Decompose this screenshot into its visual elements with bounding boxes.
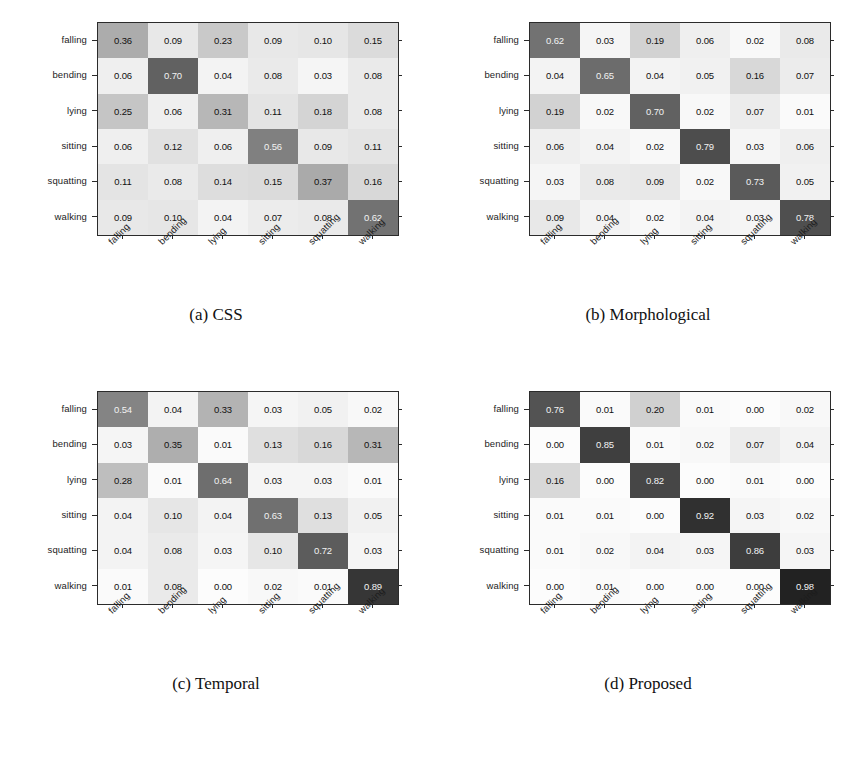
matrix-cell: 0.01 [530,498,580,533]
matrix-cell: 0.85 [580,427,630,462]
matrix-cell: 0.02 [780,498,830,533]
matrix-cell: 0.09 [630,164,680,199]
matrix-cell: 0.06 [530,129,580,164]
matrix-cell: 0.06 [198,129,248,164]
matrix-cell: 0.54 [98,392,148,427]
matrix-cell: 0.13 [248,427,298,462]
matrix-cell: 0.05 [680,58,730,93]
matrix-cell: 0.07 [730,94,780,129]
matrix-cell: 0.02 [680,164,730,199]
matrix-cell-grid: 0.760.010.200.010.000.020.000.850.010.02… [529,391,831,605]
matrix-cell: 0.25 [98,94,148,129]
confusion-matrix-temporal: fallingbendinglyingsittingsquattingwalki… [30,391,402,653]
panel-caption-temporal: (c) Temporal [0,674,432,694]
matrix-cell: 0.01 [680,392,730,427]
matrix-cell: 0.08 [248,58,298,93]
matrix-cell: 0.18 [298,94,348,129]
matrix-cell: 0.70 [630,94,680,129]
matrix-cell: 0.05 [348,498,398,533]
matrix-cell: 0.06 [680,23,730,58]
matrix-cell: 0.03 [298,463,348,498]
matrix-cell: 0.20 [630,392,680,427]
matrix-cell: 0.09 [248,23,298,58]
matrix-cell: 0.03 [248,463,298,498]
y-tick-label-falling: falling [30,22,92,57]
matrix-cell-grid: 0.540.040.330.030.050.020.030.350.010.13… [97,391,399,605]
matrix-cell: 0.79 [680,129,730,164]
confusion-matrix-figure: fallingbendinglyingsittingsquattingwalki… [0,0,864,778]
matrix-cell: 0.00 [780,463,830,498]
matrix-cell-grid: 0.620.030.190.060.020.080.040.650.040.05… [529,22,831,236]
matrix-cell: 0.03 [530,164,580,199]
panel-caption-proposed: (d) Proposed [432,674,864,694]
matrix-cell: 0.01 [630,427,680,462]
matrix-cell: 0.01 [780,94,830,129]
matrix-cell: 0.76 [530,392,580,427]
x-axis-labels: fallingbendinglyingsittingsquattingwalki… [529,604,829,652]
matrix-cell: 0.04 [630,58,680,93]
matrix-cell: 0.04 [630,533,680,568]
matrix-cell: 0.31 [198,94,248,129]
matrix-cell: 0.37 [298,164,348,199]
matrix-cell: 0.08 [148,533,198,568]
matrix-cell: 0.04 [198,498,248,533]
matrix-cell: 0.04 [530,58,580,93]
matrix-cell: 0.10 [248,533,298,568]
matrix-cell: 0.03 [348,533,398,568]
x-axis-labels: fallingbendinglyingsittingsquattingwalki… [529,235,829,283]
y-tick-label-lying: lying [462,462,524,497]
y-tick-label-sitting: sitting [30,128,92,163]
matrix-cell: 0.02 [680,427,730,462]
matrix-cell: 0.19 [530,94,580,129]
matrix-cell: 0.06 [98,58,148,93]
matrix-cell: 0.05 [298,392,348,427]
matrix-cell: 0.01 [198,427,248,462]
y-tick-label-squatting: squatting [30,163,92,198]
panel-temporal: fallingbendinglyingsittingsquattingwalki… [0,369,432,738]
matrix-cell: 0.10 [298,23,348,58]
matrix-cell: 0.00 [680,463,730,498]
matrix-cell: 0.72 [298,533,348,568]
matrix-cell: 0.00 [630,498,680,533]
matrix-cell: 0.70 [148,58,198,93]
y-axis-labels: fallingbendinglyingsittingsquattingwalki… [462,391,524,603]
y-axis-labels: fallingbendinglyingsittingsquattingwalki… [30,22,92,234]
matrix-cell: 0.04 [580,129,630,164]
matrix-cell: 0.28 [98,463,148,498]
y-tick-label-bending: bending [30,426,92,461]
matrix-cell: 0.14 [198,164,248,199]
matrix-cell: 0.15 [248,164,298,199]
matrix-cell: 0.11 [348,129,398,164]
y-axis-labels: fallingbendinglyingsittingsquattingwalki… [462,22,524,234]
matrix-cell: 0.03 [780,533,830,568]
y-tick-label-sitting: sitting [462,128,524,163]
matrix-cell: 0.08 [348,94,398,129]
matrix-cell: 0.00 [580,463,630,498]
matrix-cell: 0.16 [530,463,580,498]
confusion-matrix-css: fallingbendinglyingsittingsquattingwalki… [30,22,402,284]
matrix-cell: 0.08 [780,23,830,58]
y-tick-label-lying: lying [462,93,524,128]
y-tick-label-squatting: squatting [462,163,524,198]
matrix-cell: 0.08 [580,164,630,199]
matrix-cell: 0.03 [730,129,780,164]
matrix-cell: 0.10 [148,498,198,533]
matrix-cell: 0.04 [780,427,830,462]
matrix-cell: 0.13 [298,498,348,533]
x-axis-labels: fallingbendinglyingsittingsquattingwalki… [97,604,397,652]
y-axis-labels: fallingbendinglyingsittingsquattingwalki… [30,391,92,603]
matrix-cell: 0.36 [98,23,148,58]
matrix-cell: 0.03 [730,498,780,533]
y-tick-label-falling: falling [462,22,524,57]
matrix-cell: 0.04 [98,498,148,533]
y-tick-label-falling: falling [462,391,524,426]
matrix-cell: 0.08 [148,164,198,199]
matrix-cell: 0.02 [348,392,398,427]
matrix-cell: 0.05 [780,164,830,199]
matrix-cell: 0.02 [580,94,630,129]
matrix-cell: 0.01 [348,463,398,498]
matrix-cell: 0.01 [580,498,630,533]
y-tick-label-lying: lying [30,93,92,128]
matrix-cell: 0.16 [348,164,398,199]
matrix-cell: 0.04 [198,58,248,93]
